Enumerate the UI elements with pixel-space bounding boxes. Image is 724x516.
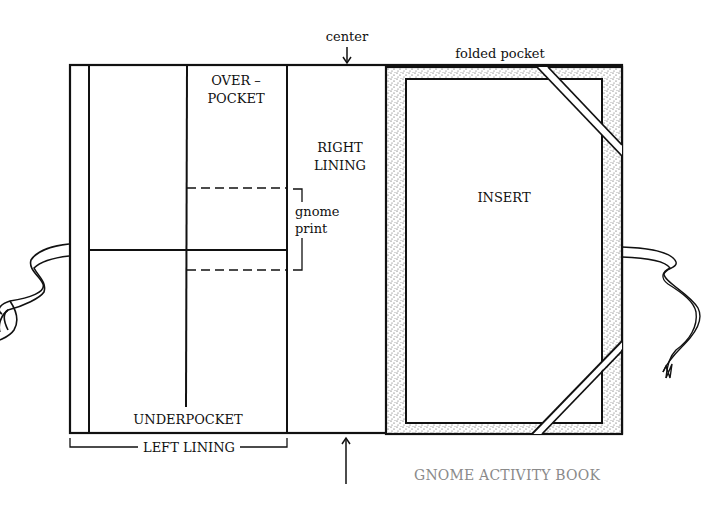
center-arrow-top xyxy=(343,47,351,63)
insert-box xyxy=(406,79,602,423)
gnome-print-label-2: print xyxy=(295,220,327,237)
right-lining-label-1: RIGHT xyxy=(305,139,375,156)
left-lining-label: LEFT LINING xyxy=(138,439,240,456)
right-lining-label-2: LINING xyxy=(305,157,375,174)
left-ribbon xyxy=(0,244,69,340)
insert-label: INSERT xyxy=(464,189,544,206)
center-arrow-bottom xyxy=(342,438,350,484)
book-caption: GNOME ACTIVITY BOOK xyxy=(414,467,600,484)
overpocket-label-2: POCKET xyxy=(196,90,276,107)
book-diagram xyxy=(0,0,724,516)
overpocket-label-1: OVER – xyxy=(196,72,276,89)
overpocket-divider xyxy=(186,66,187,407)
folded-pocket-label: folded pocket xyxy=(440,45,560,62)
right-ribbon xyxy=(622,247,700,378)
gnome-print-label-1: gnome xyxy=(295,203,340,220)
underpocket-label: UNDERPOCKET xyxy=(120,411,256,428)
center-label: center xyxy=(322,28,372,45)
